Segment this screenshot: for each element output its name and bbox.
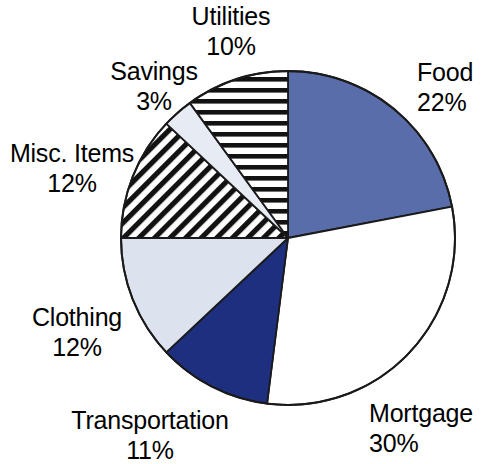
slice-label-savings: Savings 3% [86, 57, 222, 116]
slice-label-mortgage-category: Mortgage [369, 399, 489, 429]
pie-slice-group [121, 71, 455, 405]
slice-label-utilities-category: Utilities [150, 2, 312, 32]
slice-label-clothing: Clothing 12% [14, 303, 140, 362]
slice-label-misc-items-percent: 12% [2, 169, 142, 199]
slice-label-utilities: Utilities 10% [150, 2, 312, 61]
pie-slice-mortgage [267, 207, 455, 405]
slice-label-transportation-category: Transportation [58, 406, 242, 436]
slice-label-mortgage-percent: 30% [369, 429, 489, 459]
slice-label-food-category: Food [417, 58, 489, 88]
slice-label-clothing-percent: 12% [14, 333, 140, 363]
slice-label-mortgage: Mortgage 30% [369, 399, 489, 458]
pie-chart-page: Utilities 10% Savings 3% Misc. Items 12%… [0, 0, 490, 464]
slice-label-misc-items-category: Misc. Items [2, 139, 142, 169]
slice-label-savings-category: Savings [86, 57, 222, 87]
slice-label-transportation-percent: 11% [58, 436, 242, 464]
slice-label-food: Food 22% [417, 58, 489, 117]
slice-label-clothing-category: Clothing [14, 303, 140, 333]
slice-label-transportation: Transportation 11% [58, 406, 242, 464]
slice-label-food-percent: 22% [417, 88, 489, 118]
slice-label-savings-percent: 3% [86, 87, 222, 117]
slice-label-misc-items: Misc. Items 12% [2, 139, 142, 198]
